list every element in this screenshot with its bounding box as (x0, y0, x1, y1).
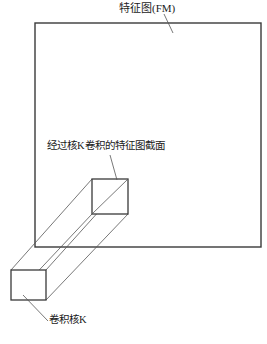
prism-edge-top-left (11, 179, 92, 270)
cross-section-square (92, 179, 128, 214)
cross-section-leader-line (110, 155, 117, 180)
feature-map-label: 特征图(FM) (119, 2, 175, 14)
caption-partial (38, 335, 234, 342)
kernel-label: 卷积核K (49, 314, 87, 326)
figure-canvas: 特征图(FM) 经过核K卷积的特征图截面 卷积核K (0, 0, 267, 344)
feature-map-rectangle (35, 23, 261, 247)
cross-section-label: 经过核K卷积的特征图截面 (47, 140, 165, 152)
diagram-svg (0, 0, 267, 344)
prism-edge-bottom-right (46, 214, 128, 300)
kernel-square (11, 270, 46, 300)
